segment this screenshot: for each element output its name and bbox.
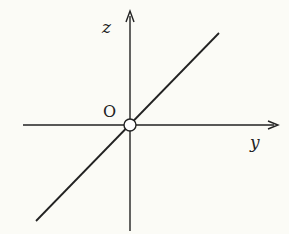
diagram-canvas bbox=[0, 0, 289, 234]
y-axis-label: y bbox=[250, 132, 260, 152]
origin-open-circle bbox=[124, 119, 136, 131]
origin-label: O bbox=[103, 102, 116, 121]
z-axis-label: z bbox=[102, 17, 111, 37]
diagram: z O y bbox=[0, 0, 289, 234]
